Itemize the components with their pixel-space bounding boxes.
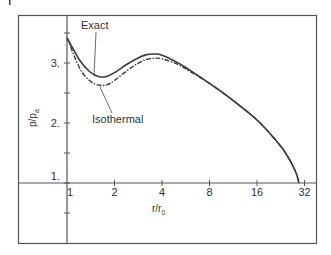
corner-mark — [9, 0, 11, 5]
x-tick-label: 8 — [206, 186, 212, 198]
series-isothermal-line — [67, 38, 299, 183]
y-tick-label: 2. — [51, 117, 60, 129]
series-exact-line — [67, 38, 299, 183]
x-axis-label: r/r0 — [152, 203, 165, 216]
plot-frame — [19, 16, 317, 244]
x-tick-label: 16 — [251, 186, 263, 198]
annotation-exact-leader — [94, 32, 96, 76]
x-tick-label: 1 — [67, 186, 73, 198]
x-tick-label: 4 — [159, 186, 165, 198]
y-tick-label: 1. — [51, 170, 60, 182]
x-tick-label: 2 — [111, 186, 117, 198]
annotation-isothermal: Isothermal — [92, 113, 143, 125]
y-axis-label: p/pa — [27, 109, 40, 127]
y-tick-labels: 3.2.1. — [51, 57, 60, 182]
x-tick-label: 32 — [298, 186, 310, 198]
x-tick-labels: 12481632 — [67, 186, 311, 198]
annotation-exact: Exact — [81, 19, 109, 31]
chart: 3.2.1. 12481632 Exact Isothermal r/r0 p/… — [0, 0, 331, 255]
y-tick-label: 3. — [51, 57, 60, 69]
annotation-isothermal-leader — [100, 87, 112, 113]
